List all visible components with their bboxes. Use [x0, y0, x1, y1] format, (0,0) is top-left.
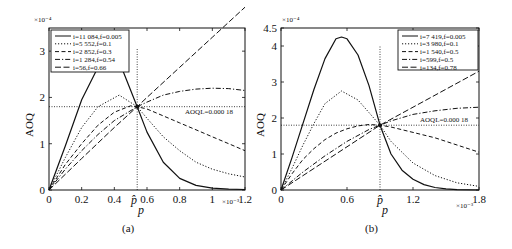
aoq-figure: 00.20.40.60.811.20123 ×10⁻⁴ ×10⁻³ p AOQ … — [0, 0, 512, 249]
p-hat-label-b: p̂ — [376, 193, 383, 207]
aoql-label-a: AOQL=0.000 18 — [185, 108, 233, 116]
y-axis-label-b: AOQ — [254, 113, 266, 137]
x-tick-label: 0 — [46, 193, 52, 205]
x-axis-label-a: p — [137, 203, 144, 217]
legend-entry: i=1 540,f=0.5 — [420, 48, 459, 56]
x-tick-label: 1.8 — [472, 193, 486, 205]
y-tick-label: 0 — [272, 184, 278, 196]
legend-entry: i=1 284,f=0.54 — [73, 56, 115, 64]
y-tick-label: 3 — [272, 76, 278, 88]
y-tick-label: 2 — [40, 91, 46, 103]
p-hat-label-a: p̂ — [130, 193, 137, 207]
legend-entry: i=3 980,f=0.1 — [420, 40, 459, 48]
x-tick-label: 1 — [210, 193, 216, 205]
legend-entry: i=5 552,f=0.1 — [73, 40, 112, 48]
y-tick-label: 2 — [272, 112, 278, 124]
x-tick-label: 0 — [278, 193, 284, 205]
y-axis-label-a: AOQ — [23, 113, 35, 137]
panel-caption-b: (b) — [365, 222, 378, 235]
chart-panel-b: 00.61.21.8012344.5 ×10⁻⁴ ×10⁻³ p AOQ AOQ… — [254, 16, 486, 235]
series-line-0 — [49, 58, 245, 190]
y-tick-label: 3 — [40, 45, 46, 57]
legend-entry: i=56,f=0.66 — [73, 64, 107, 72]
intersection-point — [135, 105, 139, 109]
y-tick-label: 1 — [272, 148, 278, 160]
x-tick-label: 0.8 — [173, 193, 187, 205]
legend-entry: i=599,f=0.5 — [420, 56, 454, 64]
y-tick-label: 4.5 — [263, 22, 277, 34]
x-tick-label: 1.2 — [238, 193, 252, 205]
x-tick-label: 0.4 — [107, 193, 121, 205]
y-multiplier-b: ×10⁻⁴ — [282, 16, 300, 24]
y-tick-label: 1 — [40, 138, 46, 150]
legend-entry: i=7 419,f=0.005 — [420, 33, 466, 41]
legend-entry: i=134,f=0.78 — [420, 64, 457, 72]
y-multiplier-a: ×10⁻⁴ — [34, 16, 52, 24]
y-tick-label: 0 — [40, 184, 46, 196]
intersection-point — [378, 123, 382, 127]
aoql-label-b: AOQL=0.000 18 — [420, 116, 468, 124]
panel-caption-a: (a) — [122, 222, 135, 235]
x-multiplier-a: ×10⁻³ — [222, 198, 239, 206]
series-line-3 — [49, 88, 245, 190]
x-tick-label: 1.2 — [406, 193, 420, 205]
series-line-1 — [281, 91, 479, 190]
legend-entry: i=2 852,f=0.3 — [73, 48, 112, 56]
x-tick-label: 0.2 — [75, 193, 89, 205]
series-line-2 — [49, 106, 245, 190]
legend-a: i=11 084,f=0.005i=5 552,f=0.1i=2 852,f=0… — [51, 30, 129, 72]
chart-panel-a: 00.20.40.60.811.20123 ×10⁻⁴ ×10⁻³ p AOQ … — [23, 7, 252, 235]
y-tick-label: 4 — [272, 40, 278, 52]
legend-entry: i=11 084,f=0.005 — [73, 33, 122, 41]
legend-b: i=7 419,f=0.005i=3 980,f=0.1i=1 540,f=0.… — [398, 30, 478, 72]
x-multiplier-b: ×10⁻³ — [456, 202, 473, 210]
x-tick-label: 0.6 — [340, 193, 354, 205]
